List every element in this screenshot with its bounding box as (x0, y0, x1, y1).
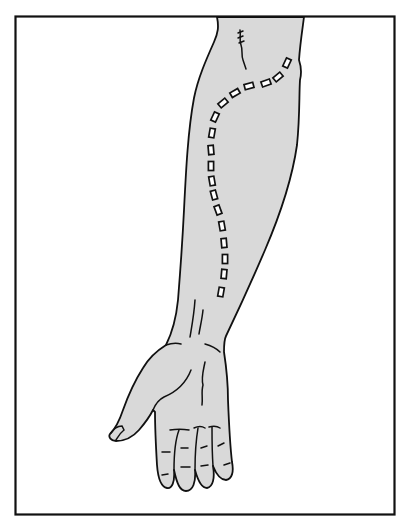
route-mark (221, 238, 227, 247)
route-mark (219, 221, 226, 231)
route-mark (218, 287, 225, 297)
route-mark (210, 190, 217, 200)
route-mark (222, 255, 227, 264)
route-mark (221, 269, 227, 278)
route-mark (208, 145, 214, 154)
forearm-hand-illustration (0, 0, 419, 530)
illustration-canvas (0, 0, 419, 530)
route-mark (208, 162, 213, 171)
arm-silhouette (109, 17, 304, 491)
route-mark (209, 128, 216, 138)
route-mark (244, 82, 254, 89)
route-mark (209, 176, 216, 186)
